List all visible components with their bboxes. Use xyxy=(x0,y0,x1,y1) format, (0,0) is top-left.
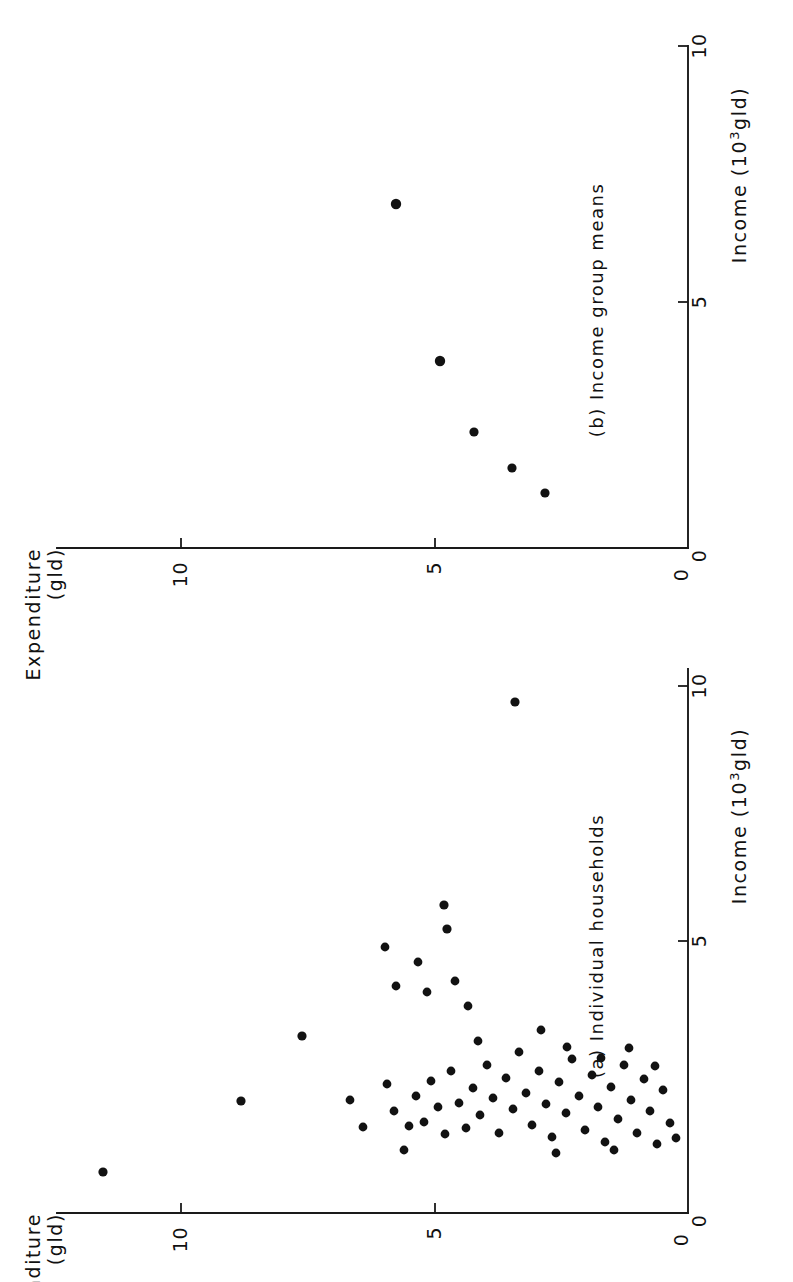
income-label-superscript: 3 xyxy=(727,771,742,781)
data-point xyxy=(435,356,445,366)
data-point xyxy=(391,199,401,209)
data-point xyxy=(489,1094,498,1103)
data-point xyxy=(434,1103,443,1112)
data-point xyxy=(464,1002,473,1011)
data-point xyxy=(98,1167,107,1176)
data-point xyxy=(420,1118,429,1127)
data-point xyxy=(390,1107,399,1116)
data-point xyxy=(640,1075,649,1084)
panel-b-ylabel-tick-5: 5 xyxy=(423,562,445,575)
panel-a-expenditure-axis-title-line1: Expenditure xyxy=(22,1213,44,1282)
data-point xyxy=(483,1061,492,1070)
data-point xyxy=(474,1037,483,1046)
data-point xyxy=(568,1055,577,1064)
panel-a-plot: 10 5 0 0 5 10 Income (103gld) Expenditur… xyxy=(0,641,793,1282)
data-point xyxy=(653,1140,662,1149)
panel-a-income-axis-title: Income (103gld) xyxy=(727,728,750,905)
data-point xyxy=(469,427,478,436)
data-point xyxy=(510,697,519,706)
income-label-suffix: gld) xyxy=(728,728,750,771)
data-point xyxy=(575,1092,584,1101)
data-point xyxy=(537,1026,546,1035)
panel-a-origin-x-zero: 0 xyxy=(670,1234,692,1247)
panel-b-plot: 10 5 0 0 5 10 Income (103gld) Expenditur… xyxy=(0,0,793,641)
data-point xyxy=(509,1105,518,1114)
data-point xyxy=(515,1048,524,1057)
panel-a-caption: (a) Individual households xyxy=(586,814,607,1078)
data-point xyxy=(441,1130,450,1139)
data-point xyxy=(620,1061,629,1070)
data-point xyxy=(563,1043,572,1052)
panel-b-income-axis-title: Income (103gld) xyxy=(727,87,750,264)
data-point xyxy=(555,1078,564,1087)
panel-a-xlabel-tick-10: 10 xyxy=(688,673,710,698)
data-point xyxy=(614,1115,623,1124)
panel-b-expenditure-axis-title-line2: (gld) xyxy=(44,548,66,600)
data-point xyxy=(625,1044,634,1053)
panel-b-xlabel-tick-10: 10 xyxy=(688,33,710,58)
data-point xyxy=(442,924,451,933)
panel-b-caption: (b) Income group means xyxy=(586,183,607,438)
data-point xyxy=(610,1146,619,1155)
data-point xyxy=(400,1146,409,1155)
data-point xyxy=(646,1107,655,1116)
data-point xyxy=(507,463,516,472)
data-point xyxy=(552,1149,561,1158)
panel-a-expenditure-axis-title-line2: (gld) xyxy=(44,1213,66,1265)
data-point xyxy=(383,1080,392,1089)
data-point xyxy=(633,1129,642,1138)
data-point xyxy=(672,1134,681,1143)
data-point xyxy=(540,488,549,497)
data-point xyxy=(297,1031,306,1040)
data-point xyxy=(522,1089,531,1098)
data-point xyxy=(469,1084,478,1093)
panel-a-ylabel-tick-5: 5 xyxy=(423,1227,445,1240)
data-point xyxy=(412,1092,421,1101)
data-point xyxy=(535,1067,544,1076)
data-point xyxy=(455,1099,464,1108)
income-label-superscript: 3 xyxy=(727,130,742,140)
data-point xyxy=(476,1111,485,1120)
data-point xyxy=(542,1100,551,1109)
panel-b-xlabel-tick-5: 5 xyxy=(688,296,710,309)
data-point xyxy=(439,900,448,909)
panel-individual-households: 10 5 0 0 5 10 Income (103gld) Expenditur… xyxy=(0,641,793,1281)
data-point xyxy=(462,1124,471,1133)
data-point xyxy=(414,958,423,967)
data-point xyxy=(359,1123,368,1132)
data-point xyxy=(651,1062,660,1071)
data-point xyxy=(427,1077,436,1086)
data-point xyxy=(528,1121,537,1130)
data-point xyxy=(548,1133,557,1142)
panel-a-xlabel-tick-5: 5 xyxy=(688,935,710,948)
data-point xyxy=(405,1122,414,1131)
data-point xyxy=(447,1067,456,1076)
data-point xyxy=(627,1096,636,1105)
panel-b-origin-x-zero: 0 xyxy=(670,569,692,582)
data-point xyxy=(659,1086,668,1095)
data-point xyxy=(236,1096,245,1105)
data-point xyxy=(666,1119,675,1128)
data-point xyxy=(346,1096,355,1105)
data-point xyxy=(423,988,432,997)
panel-a-ylabel-tick-10: 10 xyxy=(169,1227,191,1252)
panel-b-data-points xyxy=(391,199,550,498)
data-point xyxy=(601,1138,610,1147)
data-point xyxy=(562,1109,571,1118)
data-point xyxy=(594,1103,603,1112)
panel-income-group-means: 10 5 0 0 5 10 Income (103gld) Expenditur… xyxy=(0,0,793,640)
data-point xyxy=(392,982,401,991)
data-point xyxy=(495,1129,504,1138)
data-point xyxy=(607,1083,616,1092)
data-point xyxy=(581,1126,590,1135)
data-point xyxy=(451,977,460,986)
panel-b-ylabel-tick-10: 10 xyxy=(169,562,191,587)
panel-b-origin-y-zero: 0 xyxy=(688,550,710,563)
income-label-prefix: Income (10 xyxy=(728,140,750,264)
panel-a-origin-y-zero: 0 xyxy=(688,1215,710,1228)
income-label-prefix: Income (10 xyxy=(728,781,750,905)
data-point xyxy=(381,943,390,952)
data-point xyxy=(502,1074,511,1083)
income-label-suffix: gld) xyxy=(728,87,750,130)
